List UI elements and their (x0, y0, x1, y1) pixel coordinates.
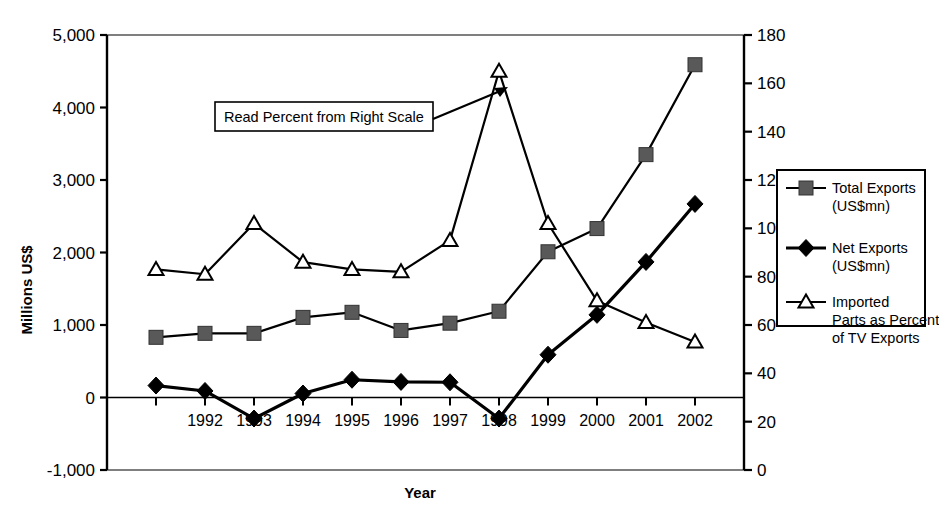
left-axis-tick-label: 2,000 (52, 244, 95, 263)
y-axis-title: Millions US$ (18, 245, 35, 335)
data-point-marker (198, 326, 212, 340)
x-axis-tick-label: 1997 (432, 412, 468, 429)
right-axis-tick-label: 140 (757, 123, 785, 142)
left-axis-tick-label: -1,000 (47, 461, 95, 480)
x-axis-tick-label: 1994 (285, 412, 321, 429)
data-point-marker (590, 222, 604, 236)
left-axis-tick-label: 3,000 (52, 171, 95, 190)
x-axis-tick-label: 1995 (334, 412, 370, 429)
legend-marker-glyph (799, 181, 813, 195)
right-axis-tick-label: 0 (757, 461, 766, 480)
x-axis-title: Year (404, 484, 436, 501)
legend-label: Parts as Percent (832, 312, 939, 328)
annotation-text: Read Percent from Right Scale (224, 109, 424, 125)
x-axis-tick-label: 2000 (579, 412, 615, 429)
right-axis-tick-label: 160 (757, 74, 785, 93)
chart-figure: 5,0004,0003,0002,0001,0000-1,000 1801601… (0, 0, 939, 518)
data-point-marker (149, 330, 163, 344)
legend-marker (799, 181, 813, 195)
legend-label: Imported (832, 294, 889, 310)
economic-line-chart: 5,0004,0003,0002,0001,0000-1,000 1801601… (0, 0, 939, 518)
right-axis-tick-label: 80 (757, 268, 776, 287)
right-axis-tick-label: 60 (757, 316, 776, 335)
data-point-marker (492, 304, 506, 318)
x-axis-tick-label: 1999 (530, 412, 566, 429)
data-point-marker (345, 305, 359, 319)
legend-label: of TV Exports (832, 330, 920, 346)
x-axis-tick-label: 2001 (628, 412, 664, 429)
left-axis-tick-label: 1,000 (52, 316, 95, 335)
data-point-marker (639, 148, 653, 162)
data-point-marker (296, 310, 310, 324)
data-point-marker (247, 326, 261, 340)
legend-label: (US$mn) (832, 258, 890, 274)
x-axis-tick-label: 1996 (383, 412, 419, 429)
legend-label: Total Exports (832, 180, 916, 196)
legend-label: (US$mn) (832, 198, 890, 214)
right-axis-tick-label: 40 (757, 364, 776, 383)
x-axis-tick-label: 2002 (677, 412, 713, 429)
data-point-marker (541, 245, 555, 259)
left-axis-tick-label: 5,000 (52, 26, 95, 45)
right-axis-tick-label: 20 (757, 413, 776, 432)
right-axis-tick-label: 180 (757, 26, 785, 45)
data-point-marker (688, 58, 702, 72)
chart-legend: Total Exports(US$mn)Net Exports(US$mn)Im… (777, 170, 939, 346)
data-point-marker (443, 316, 457, 330)
legend-label: Net Exports (832, 240, 908, 256)
data-point-marker (394, 323, 408, 337)
x-axis-tick-label: 1992 (187, 412, 223, 429)
left-axis-tick-label: 4,000 (52, 99, 95, 118)
left-axis-tick-label: 0 (86, 389, 95, 408)
